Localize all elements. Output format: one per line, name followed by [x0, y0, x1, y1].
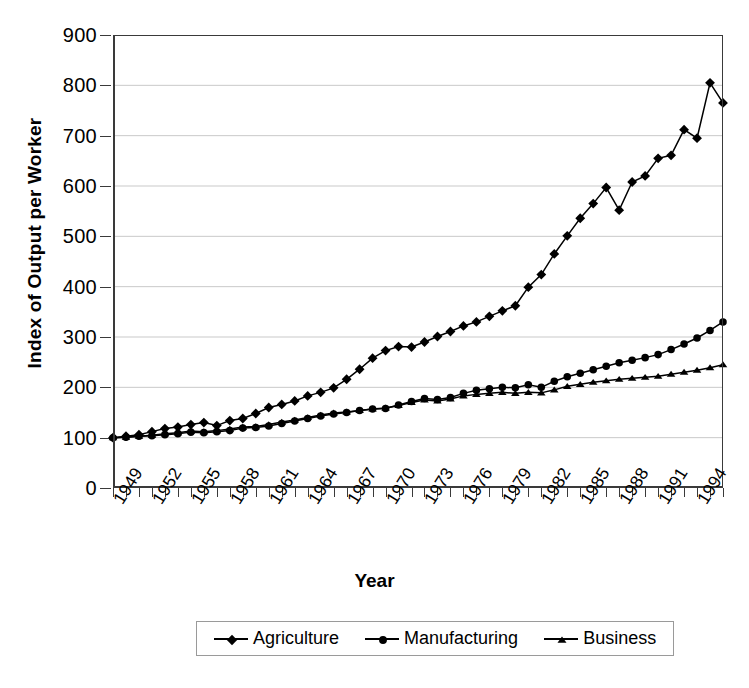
x-tick-mark: [217, 488, 218, 497]
plot-area: [113, 35, 723, 488]
y-tick-mark: [100, 186, 111, 187]
legend-item-business[interactable]: Business: [544, 628, 656, 649]
x-tick-mark: [139, 488, 140, 497]
y-tick-label: 400: [63, 275, 97, 298]
y-tick-mark: [100, 236, 111, 237]
x-tick-mark: [645, 488, 646, 497]
x-tick-mark: [334, 488, 335, 497]
y-tick-mark: [100, 136, 111, 137]
y-tick-label: 600: [63, 175, 97, 198]
y-tick-label: 900: [63, 24, 97, 47]
triangle-marker: [544, 632, 578, 646]
x-tick-mark: [528, 488, 529, 497]
x-tick-mark: [723, 488, 724, 497]
y-tick-mark: [100, 85, 111, 86]
circle-marker: [365, 632, 399, 646]
x-tick-mark: [412, 488, 413, 497]
y-tick-mark: [100, 488, 111, 489]
x-axis-title: Year: [0, 570, 749, 592]
x-tick-mark: [450, 488, 451, 497]
legend-label: Business: [583, 628, 656, 649]
y-tick-label: 800: [63, 74, 97, 97]
x-tick-mark: [178, 488, 179, 497]
x-axis-labels: 1949195219551958196119641967197019731976…: [0, 497, 749, 572]
y-tick-label: 300: [63, 326, 97, 349]
y-tick-mark: [100, 387, 111, 388]
legend-item-manufacturing[interactable]: Manufacturing: [365, 628, 518, 649]
legend-item-agriculture[interactable]: Agriculture: [214, 628, 339, 649]
y-tick-mark: [100, 35, 111, 36]
x-tick-mark: [256, 488, 257, 497]
y-tick-label: 700: [63, 124, 97, 147]
legend-label: Manufacturing: [404, 628, 518, 649]
x-tick-mark: [684, 488, 685, 497]
x-tick-mark: [295, 488, 296, 497]
x-tick-mark: [489, 488, 490, 497]
diamond-marker: [214, 632, 248, 646]
legend-label: Agriculture: [253, 628, 339, 649]
y-tick-mark: [100, 337, 111, 338]
x-tick-mark: [606, 488, 607, 497]
y-tick-label: 100: [63, 426, 97, 449]
y-tick-label: 500: [63, 225, 97, 248]
y-tick-label: 200: [63, 376, 97, 399]
y-tick-mark: [100, 287, 111, 288]
x-tick-mark: [567, 488, 568, 497]
x-tick-mark: [373, 488, 374, 497]
y-axis-title: Index of Output per Worker: [24, 33, 46, 453]
chart-legend: AgricultureManufacturingBusiness: [196, 621, 674, 656]
plot-frame: [113, 35, 723, 488]
y-axis: 0100200300400500600700800900: [0, 0, 113, 523]
